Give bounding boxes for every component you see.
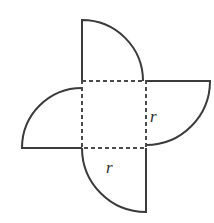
- figure-background: [0, 0, 214, 223]
- radius-label-bottom: r: [106, 158, 113, 177]
- pinwheel-diagram: r r: [0, 0, 214, 223]
- radius-label-right: r: [150, 107, 157, 126]
- geometry-figure: r r: [0, 0, 214, 223]
